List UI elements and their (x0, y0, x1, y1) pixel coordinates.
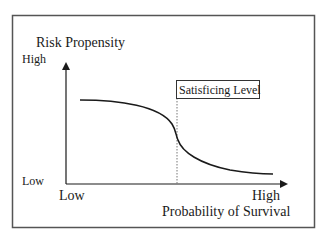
x-axis-title: Probability of Survival (162, 204, 290, 219)
y-axis-title: Risk Propensity (36, 35, 125, 50)
diagram-canvas: Risk Propensity High Low Low High Probab… (0, 0, 327, 239)
satisficing-level-label: Satisficing Level (179, 83, 261, 97)
x-axis-low-label: Low (59, 188, 86, 203)
y-axis-high-label: High (22, 52, 46, 66)
x-axis-high-label: High (252, 188, 280, 203)
y-axis-low-label: Low (22, 174, 44, 188)
